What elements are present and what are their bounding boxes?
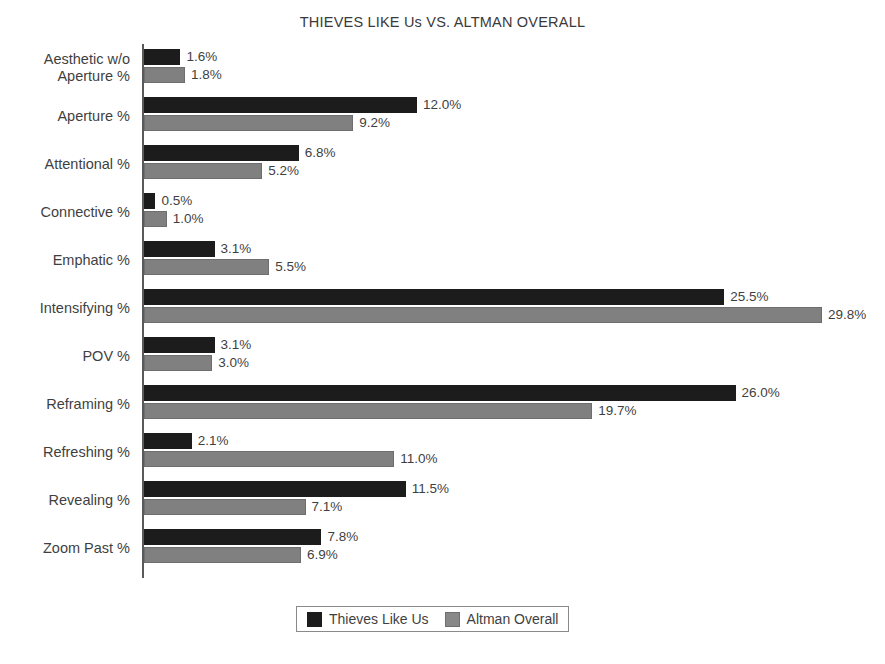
category-row: POV %3.1%3.0% (142, 332, 882, 380)
plot-area: Aesthetic w/o Aperture %1.6%1.8%Aperture… (142, 44, 882, 578)
bar-0 (144, 481, 406, 497)
bar-1 (144, 259, 269, 275)
bar-0 (144, 433, 192, 449)
bar-0 (144, 529, 321, 545)
category-row: Reframing %26.0%19.7% (142, 380, 882, 428)
category-row: Zoom Past %7.8%6.9% (142, 524, 882, 572)
bar-value-label: 7.8% (327, 529, 358, 545)
bar-1 (144, 547, 301, 563)
bar-value-label: 12.0% (423, 97, 461, 113)
bar-1 (144, 67, 185, 83)
bar-1 (144, 451, 394, 467)
bar-value-label: 6.8% (305, 145, 336, 161)
legend-entry[interactable]: Altman Overall (445, 611, 559, 627)
bar-value-label: 3.1% (221, 241, 252, 257)
category-row: Refreshing %2.1%11.0% (142, 428, 882, 476)
category-row: Aperture %12.0%9.2% (142, 92, 882, 140)
category-label: Refreshing % (0, 444, 130, 461)
category-label: Intensifying % (0, 300, 130, 317)
category-label: Connective % (0, 204, 130, 221)
chart-legend: Thieves Like UsAltman Overall (296, 606, 569, 632)
bar-0 (144, 289, 724, 305)
category-row: Aesthetic w/o Aperture %1.6%1.8% (142, 44, 882, 92)
bar-1 (144, 403, 592, 419)
bar-value-label: 3.0% (218, 355, 249, 371)
bar-0 (144, 145, 299, 161)
bar-value-label: 11.5% (412, 481, 449, 497)
bar-value-label: 6.9% (307, 547, 338, 563)
bar-0 (144, 49, 180, 65)
bar-1 (144, 355, 212, 371)
category-row: Intensifying %25.5%29.8% (142, 284, 882, 332)
bar-value-label: 1.8% (191, 67, 222, 83)
legend-swatch-icon (445, 612, 460, 627)
bar-value-label: 5.5% (275, 259, 306, 275)
bar-value-label: 29.8% (828, 307, 866, 323)
bar-value-label: 2.1% (198, 433, 229, 449)
category-row: Revealing %11.5%7.1% (142, 476, 882, 524)
category-label: Aperture % (0, 108, 130, 125)
chart-title: THIEVES LIKE Us VS. ALTMAN OVERALL (0, 14, 885, 30)
bar-0 (144, 97, 417, 113)
bar-1 (144, 499, 306, 515)
bar-value-label: 5.2% (268, 163, 299, 179)
category-label: Attentional % (0, 156, 130, 173)
bar-chart: THIEVES LIKE Us VS. ALTMAN OVERALL Aesth… (0, 0, 885, 664)
bar-value-label: 11.0% (400, 451, 437, 467)
category-label: Zoom Past % (0, 540, 130, 557)
category-label: POV % (0, 348, 130, 365)
category-row: Emphatic %3.1%5.5% (142, 236, 882, 284)
legend-swatch-icon (307, 612, 322, 627)
bar-1 (144, 115, 353, 131)
bar-value-label: 1.0% (173, 211, 204, 227)
bar-value-label: 25.5% (730, 289, 768, 305)
bar-0 (144, 241, 215, 257)
bar-1 (144, 211, 167, 227)
category-row: Attentional %6.8%5.2% (142, 140, 882, 188)
bar-value-label: 26.0% (742, 385, 780, 401)
legend-label: Altman Overall (467, 611, 559, 627)
category-label: Emphatic % (0, 252, 130, 269)
bar-value-label: 1.6% (186, 49, 217, 65)
bar-1 (144, 307, 822, 323)
bar-value-label: 3.1% (221, 337, 252, 353)
bar-0 (144, 337, 215, 353)
bar-value-label: 7.1% (312, 499, 343, 515)
bar-value-label: 19.7% (598, 403, 636, 419)
legend-entry[interactable]: Thieves Like Us (307, 611, 429, 627)
legend-label: Thieves Like Us (329, 611, 429, 627)
bar-1 (144, 163, 262, 179)
category-label: Revealing % (0, 492, 130, 509)
bar-value-label: 0.5% (161, 193, 192, 209)
bar-value-label: 9.2% (359, 115, 390, 131)
category-label: Reframing % (0, 396, 130, 413)
bar-0 (144, 193, 155, 209)
bar-0 (144, 385, 736, 401)
category-row: Connective %0.5%1.0% (142, 188, 882, 236)
category-label: Aesthetic w/o Aperture % (0, 51, 130, 85)
